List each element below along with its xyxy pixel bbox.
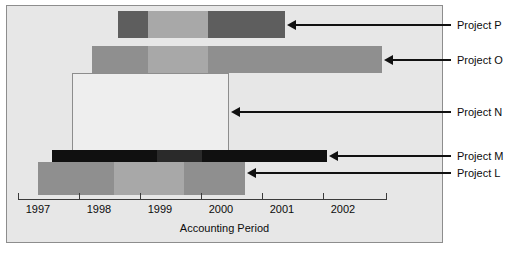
bar-project-l[interactable] <box>38 162 245 195</box>
bar-segment <box>118 11 148 38</box>
callout-label-project-l: Project L <box>457 167 500 179</box>
chart-canvas: 1997 1998 1999 2000 2001 2002 Accounting… <box>0 0 526 267</box>
bar-segment <box>114 162 184 195</box>
callout-leader-project-m <box>337 155 451 157</box>
bar-segment <box>202 150 327 162</box>
bar-segment <box>184 162 245 195</box>
bar-segment <box>157 150 202 162</box>
bar-segment <box>92 46 148 73</box>
bar-segment <box>52 150 157 162</box>
axis-end-cap-right <box>386 193 387 200</box>
x-tick-1999 <box>140 193 141 200</box>
callout-label-project-m: Project M <box>457 150 503 162</box>
bar-project-n[interactable] <box>72 73 229 151</box>
x-tick-label-2002: 2002 <box>305 203 381 215</box>
x-tick-2001 <box>262 193 263 200</box>
callout-label-project-p: Project P <box>457 19 502 31</box>
bar-segment <box>285 46 382 73</box>
x-axis-line <box>18 199 387 200</box>
x-tick-1997 <box>18 193 19 200</box>
bar-segment <box>148 46 208 73</box>
bar-segment <box>208 46 285 73</box>
bar-segment <box>208 11 285 38</box>
bar-project-p[interactable] <box>118 11 285 38</box>
callout-leader-project-n <box>239 111 451 113</box>
callout-leader-project-p <box>295 24 451 26</box>
x-tick-1998 <box>79 193 80 200</box>
bar-segment <box>38 162 114 195</box>
x-tick-2000 <box>201 193 202 200</box>
bar-segment <box>148 11 208 38</box>
callout-label-project-n: Project N <box>457 106 502 118</box>
bar-project-o[interactable] <box>92 46 382 73</box>
x-axis-title: Accounting Period <box>6 222 443 234</box>
callout-label-project-o: Project O <box>457 54 503 66</box>
callout-leader-project-l <box>255 172 451 174</box>
bar-project-m[interactable] <box>52 150 327 162</box>
x-tick-2002 <box>323 193 324 200</box>
callout-leader-project-o <box>392 59 451 61</box>
